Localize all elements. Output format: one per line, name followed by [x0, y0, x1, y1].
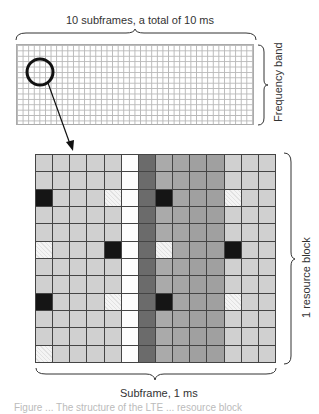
resource-element [156, 259, 172, 275]
resource-element [36, 172, 52, 188]
resource-element [87, 328, 103, 344]
resource-element [156, 224, 172, 240]
resource-element [259, 242, 275, 258]
resource-element [207, 207, 223, 223]
resource-element [225, 294, 241, 310]
resource-element [242, 207, 258, 223]
resource-element [242, 155, 258, 171]
resource-element [122, 207, 138, 223]
resource-element [259, 311, 275, 327]
resource-element [87, 294, 103, 310]
resource-element [122, 172, 138, 188]
resource-element [190, 276, 206, 292]
resource-element [53, 311, 69, 327]
resource-element [70, 346, 86, 362]
resource-element [139, 224, 155, 240]
resource-element [122, 259, 138, 275]
resource-element [53, 190, 69, 206]
resource-element [259, 224, 275, 240]
resource-element [87, 259, 103, 275]
resource-element [53, 155, 69, 171]
resource-element [173, 346, 189, 362]
resource-element [53, 346, 69, 362]
resource-element [87, 311, 103, 327]
resource-element [207, 276, 223, 292]
resource-element [225, 346, 241, 362]
resource-element [190, 294, 206, 310]
zoom-arrow-icon [0, 0, 319, 160]
resource-element [53, 328, 69, 344]
resource-element [105, 294, 121, 310]
resource-element [156, 172, 172, 188]
resource-element [207, 155, 223, 171]
resource-element [70, 172, 86, 188]
resource-element [156, 190, 172, 206]
resource-element [173, 276, 189, 292]
resource-element [190, 172, 206, 188]
resource-element [139, 259, 155, 275]
resource-element [173, 294, 189, 310]
resource-element [105, 311, 121, 327]
resource-element [70, 242, 86, 258]
resource-element [173, 155, 189, 171]
resource-element [70, 224, 86, 240]
resource-element [225, 259, 241, 275]
resource-element [225, 311, 241, 327]
resource-element [53, 294, 69, 310]
resource-element [242, 346, 258, 362]
resource-element [207, 294, 223, 310]
resource-element [259, 207, 275, 223]
resource-element [225, 224, 241, 240]
resource-element [259, 259, 275, 275]
resource-element [139, 276, 155, 292]
resource-element [139, 328, 155, 344]
resource-element [105, 259, 121, 275]
resource-element [207, 224, 223, 240]
resource-element [259, 294, 275, 310]
resource-element [139, 207, 155, 223]
resource-element [242, 224, 258, 240]
resource-element [207, 242, 223, 258]
subframe-label: Subframe, 1 ms [120, 387, 198, 399]
resource-element [190, 328, 206, 344]
resource-element [242, 172, 258, 188]
resource-element [36, 224, 52, 240]
resource-element [122, 294, 138, 310]
resource-element [87, 242, 103, 258]
resource-element [156, 346, 172, 362]
resource-element [242, 294, 258, 310]
resource-block-grid [35, 154, 276, 363]
resource-element [70, 276, 86, 292]
resource-element [156, 242, 172, 258]
resource-element [105, 276, 121, 292]
resource-element [259, 346, 275, 362]
resource-element [242, 276, 258, 292]
resource-element [53, 207, 69, 223]
resource-element [70, 259, 86, 275]
resource-element [173, 190, 189, 206]
resource-element [70, 294, 86, 310]
resource-element [87, 346, 103, 362]
resource-element [105, 190, 121, 206]
resource-element [207, 328, 223, 344]
resource-element [225, 172, 241, 188]
resource-element [105, 346, 121, 362]
resource-element [190, 311, 206, 327]
resource-element [225, 328, 241, 344]
resource-element [70, 207, 86, 223]
resource-element [156, 311, 172, 327]
resource-element [87, 190, 103, 206]
resource-element [225, 155, 241, 171]
resource-element [139, 242, 155, 258]
resource-element [87, 207, 103, 223]
resource-element [259, 155, 275, 171]
resource-element [36, 276, 52, 292]
resource-element [139, 155, 155, 171]
resource-element [190, 242, 206, 258]
resource-element [225, 207, 241, 223]
resource-element [139, 294, 155, 310]
resource-element [173, 207, 189, 223]
resource-element [122, 346, 138, 362]
resource-element [242, 311, 258, 327]
resource-element [225, 190, 241, 206]
